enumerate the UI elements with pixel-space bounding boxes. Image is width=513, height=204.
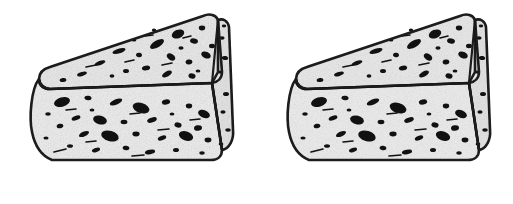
cheese-hole	[427, 112, 432, 115]
cheese-hole	[367, 74, 372, 78]
cheese-hole	[45, 112, 51, 116]
cheese-streak	[389, 155, 401, 156]
cheese-streak	[387, 113, 397, 114]
cheese-hole	[453, 69, 458, 72]
cheese-hole	[466, 44, 472, 48]
cheese-hole	[123, 69, 129, 73]
cheese-streak	[190, 119, 200, 120]
cheese-hole	[456, 26, 462, 31]
cheese-hole	[186, 104, 192, 109]
cheese-hole	[482, 128, 488, 132]
cheese-hole	[199, 26, 205, 31]
cheese-hole	[223, 92, 229, 96]
cheese-hole	[178, 46, 183, 50]
cheese-hole	[462, 138, 469, 143]
cheese-hole	[302, 112, 308, 116]
cheese-wedges-illustration	[0, 0, 513, 204]
cheese-streak	[66, 109, 76, 110]
cheese-streak	[343, 141, 353, 142]
cheese-hole	[90, 108, 95, 111]
cheese-hole	[380, 69, 386, 73]
cheese-hole	[378, 120, 385, 124]
cheese-hole	[220, 110, 225, 114]
cheese-hole	[225, 128, 231, 132]
cheese-hole	[435, 46, 440, 50]
cheese-hole	[196, 69, 201, 72]
cheese-hole	[132, 132, 139, 137]
cheese-streak	[130, 113, 140, 114]
cheese-hole	[222, 25, 226, 28]
cheese-streak	[158, 129, 169, 130]
cheese-hole	[324, 144, 330, 148]
cheese-hole	[170, 112, 175, 115]
cheese-hole	[43, 136, 48, 139]
cheese-hole	[199, 151, 205, 155]
cheese-streak	[447, 119, 457, 120]
cheese-hole	[389, 132, 396, 137]
cheese-hole	[300, 136, 305, 139]
cheese-streak	[323, 109, 333, 110]
cheese-hole	[430, 148, 436, 152]
cheese-streak	[415, 129, 426, 130]
cheese-hole	[209, 44, 215, 48]
illustration-canvas: Two identical hand-drawn triangular chee…	[0, 0, 513, 204]
cheese-hole	[456, 151, 462, 155]
cheese-hole	[205, 138, 212, 143]
cheese-hole	[121, 120, 128, 124]
cheese-hole	[67, 144, 73, 148]
cheese-hole	[479, 25, 483, 28]
cheese-hole	[110, 74, 115, 78]
cheese-hole	[173, 148, 179, 152]
cheese-streak	[132, 155, 144, 156]
cheese-hole	[443, 104, 449, 109]
cheese-hole	[477, 110, 482, 114]
cheese-streak	[86, 141, 96, 142]
cheese-hole	[480, 92, 486, 96]
cheese-hole	[347, 108, 352, 111]
